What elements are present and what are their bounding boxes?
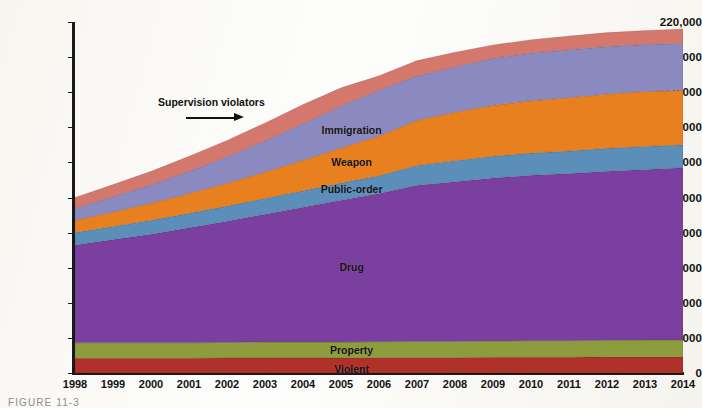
y-axis-tick-mark — [68, 22, 73, 23]
annotation-label: Supervision violators — [158, 96, 288, 108]
x-axis-tick-2004: 2004 — [291, 378, 315, 390]
series-label-drug: Drug — [339, 261, 364, 273]
figure-caption: FIGURE 11-3 — [8, 397, 80, 408]
x-axis-tick-2011: 2011 — [557, 378, 581, 390]
series-label-public-order: Public-order — [321, 183, 383, 195]
x-axis-tick-2001: 2001 — [177, 378, 201, 390]
x-axis-tick-2013: 2013 — [633, 378, 657, 390]
x-axis-tick-1999: 1999 — [101, 378, 125, 390]
y-axis-tick-mark — [68, 57, 73, 58]
x-axis-tick-2002: 2002 — [215, 378, 239, 390]
arrow-head — [234, 113, 244, 121]
x-axis-tick-2005: 2005 — [329, 378, 353, 390]
x-axis-tick-2012: 2012 — [595, 378, 619, 390]
y-axis-tick-mark — [68, 92, 73, 93]
y-axis-tick-mark — [68, 162, 73, 163]
x-axis-tick-2009: 2009 — [481, 378, 505, 390]
series-label-violent: Violent — [334, 363, 369, 375]
x-axis-tick-1998: 1998 — [63, 378, 87, 390]
x-axis-tick-2000: 2000 — [139, 378, 163, 390]
y-axis-tick-mark — [68, 198, 73, 199]
series-label-weapon: Weapon — [331, 156, 372, 168]
x-axis-tick-2010: 2010 — [519, 378, 543, 390]
y-axis-tick-mark — [68, 127, 73, 128]
stacked-area-plot — [75, 22, 683, 373]
x-axis-tick-2008: 2008 — [443, 378, 467, 390]
x-axis-tick-2014: 2014 — [671, 378, 695, 390]
series-label-property: Property — [330, 344, 373, 356]
series-label-immigration: Immigration — [322, 124, 382, 136]
x-axis-tick-2006: 2006 — [367, 378, 391, 390]
y-axis-tick-mark — [68, 233, 73, 234]
x-axis-tick-2003: 2003 — [253, 378, 277, 390]
figure-page: 220,000180,000150,000130,000110,00090,00… — [0, 0, 702, 408]
y-axis-tick-mark — [68, 338, 73, 339]
x-axis-tick-2007: 2007 — [405, 378, 429, 390]
supervision-violators-annotation: Supervision violators — [158, 96, 288, 122]
y-axis-tick-mark — [68, 268, 73, 269]
area-series-violent — [75, 357, 683, 373]
area-series-group — [75, 22, 683, 373]
y-axis-tick-mark — [68, 373, 73, 374]
right-arrow-icon — [186, 113, 246, 122]
y-axis-tick-mark — [68, 303, 73, 304]
arrow-shaft — [186, 117, 236, 119]
